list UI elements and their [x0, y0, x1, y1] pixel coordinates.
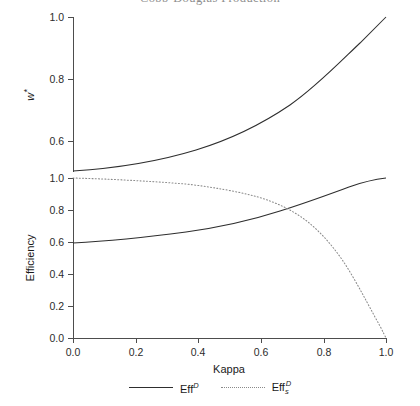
top-ticklabel-0.6: 0.6 — [49, 135, 64, 147]
legend-label-eff-s-d: EffsD — [272, 379, 291, 396]
bottom-ticklabel-0.4: 0.4 — [49, 268, 64, 280]
bottom-ticklabel-0.0: 0.0 — [49, 332, 64, 344]
x-ticklabel-0.6: 0.6 — [254, 346, 269, 358]
x-ticklabel-0.2: 0.2 — [129, 346, 144, 358]
top-ticklabel-0.8: 0.8 — [49, 73, 64, 85]
legend-entry-eff-s-d[interactable]: EffsD — [221, 379, 291, 396]
bottom-panel-y-axis-title: Efficiency — [24, 234, 36, 281]
x-ticklabel-1.0: 1.0 — [379, 346, 394, 358]
legend-label-eff-d: EffD — [180, 381, 199, 395]
bottom-ticklabel-0.8: 0.8 — [49, 204, 64, 216]
series-w-star — [73, 17, 386, 171]
bottom-ticklabel-1.0: 1.0 — [49, 172, 64, 184]
legend-eff-s-d-sub: s — [285, 387, 289, 396]
legend-eff-d-sup: D — [193, 381, 198, 390]
bottom-y-title-text: Efficiency — [24, 234, 36, 281]
legend-entry-eff-d[interactable]: EffD — [129, 381, 199, 395]
x-axis-title: Kappa — [213, 363, 246, 375]
legend-eff-d-base: Eff — [180, 382, 193, 394]
plot-canvas: 1.0 0.8 0.6 w* 1.0 — [0, 0, 420, 406]
legend-line-dotted-icon — [221, 387, 265, 388]
top-panel: 1.0 0.8 0.6 w* — [22, 11, 386, 172]
chart-legend: EffD EffsD — [0, 379, 420, 396]
chart-figure: Cobb-Douglas Production 1.0 0.8 0.6 w* — [0, 0, 420, 406]
top-ticklabel-1.0: 1.0 — [49, 11, 64, 23]
legend-eff-s-d-base: Eff — [272, 381, 285, 393]
bottom-panel: 1.0 0.8 0.6 0.4 0.2 0.0 Efficiency 0.0 0… — [24, 172, 393, 375]
legend-line-solid-icon — [129, 387, 173, 388]
bottom-ticklabel-0.6: 0.6 — [49, 236, 64, 248]
x-ticklabel-0.4: 0.4 — [191, 346, 206, 358]
bottom-ticklabel-0.2: 0.2 — [49, 300, 64, 312]
series-eff-s-d — [73, 178, 386, 338]
svg-text:w*: w* — [22, 89, 36, 101]
legend-eff-s-d-sup: D — [286, 379, 291, 388]
x-ticklabel-0.8: 0.8 — [317, 346, 332, 358]
x-ticklabel-0.0: 0.0 — [66, 346, 81, 358]
top-panel-y-axis-title: w* — [22, 89, 36, 101]
series-eff-d — [73, 178, 386, 243]
